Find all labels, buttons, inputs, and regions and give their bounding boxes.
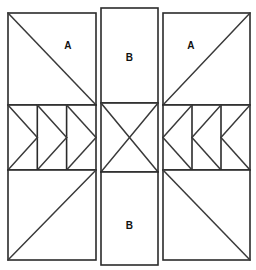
patch-bottom-center-rect: B [101, 172, 158, 265]
top-left-label: A [64, 40, 71, 51]
middle-right-strip-outline [163, 105, 250, 170]
middle-left-strip-outline [8, 105, 96, 170]
quilt-block-diagram: A B [0, 0, 256, 270]
patch-top-center-rect: B [101, 8, 158, 103]
patch-middle-left-geese [8, 105, 96, 170]
bottom-center-rect-outline [101, 172, 158, 265]
patch-bottom-left-square [8, 170, 96, 260]
top-right-label: A [187, 40, 194, 51]
bottom-center-label: B [126, 220, 133, 231]
patch-top-left-square: A [8, 13, 96, 105]
quilt-diagram-canvas: A B [0, 0, 256, 270]
patch-top-right-square: A [163, 13, 250, 105]
patch-middle-right-geese [163, 105, 250, 170]
patch-middle-center-x [101, 103, 158, 172]
top-center-label: B [126, 52, 133, 63]
patch-bottom-right-square [163, 170, 250, 260]
